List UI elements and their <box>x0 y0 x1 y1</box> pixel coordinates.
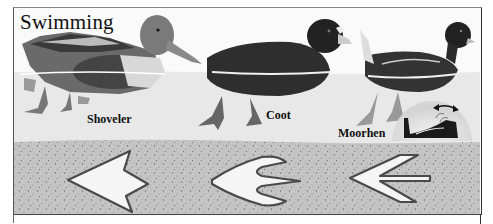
frame-right-tick <box>480 214 481 224</box>
moorhen-label: Moorhen <box>338 126 385 141</box>
frame-bottom-border <box>13 214 481 215</box>
coot-label: Coot <box>266 108 291 123</box>
shoveler-label: Shoveler <box>87 112 132 127</box>
page-title: Swimming <box>20 10 114 35</box>
frame-left-tick <box>13 214 14 223</box>
